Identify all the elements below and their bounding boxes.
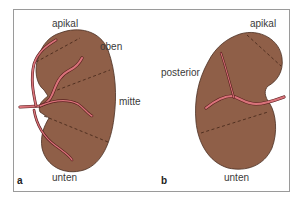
label-a-oben: oben — [100, 42, 122, 52]
label-a-mitte: mitte — [119, 97, 141, 107]
label-a-unten: unten — [52, 173, 77, 183]
kidney-b — [196, 32, 285, 169]
label-b-posterior: posterior — [161, 68, 200, 78]
kidney-segments-illustration — [0, 0, 299, 205]
panel-letter-b: b — [161, 176, 167, 186]
panel-letter-a: a — [17, 176, 23, 186]
label-a-apikal: apikal — [52, 19, 78, 29]
label-b-apikal: apikal — [250, 19, 276, 29]
label-b-unten: unten — [224, 173, 249, 183]
